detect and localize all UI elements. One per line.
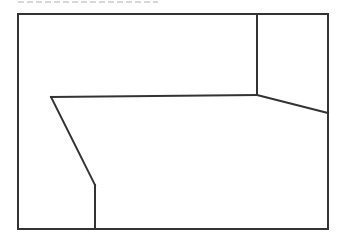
interior-lines [51, 14, 328, 229]
horizontal-edge-line [51, 95, 257, 97]
left-slant-line [51, 97, 95, 185]
line-drawing [0, 0, 346, 245]
right-slant-line [257, 95, 328, 113]
outer-frame [18, 14, 328, 229]
